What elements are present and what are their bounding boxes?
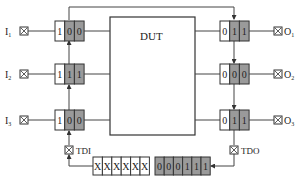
output-boundary-cell-2: 000 [220,64,249,84]
register-bit: 1 [57,26,62,37]
input-boundary-cell-1: 100 [55,21,84,41]
register-bit: 1 [185,161,190,172]
register-bit: 0 [67,26,72,37]
tdo-capture-register: 000111 [155,157,210,175]
register-bit: 0 [232,69,237,80]
register-bit: 0 [222,115,227,126]
input-pin-1 [20,27,28,35]
register-bit: 1 [242,26,247,37]
tdi-pin: TDI [65,146,91,156]
tdi-register-cells: XXXXXX [93,157,149,175]
register-bit: 0 [77,115,82,126]
register-bit: 0 [157,161,162,172]
register-bit: 1 [194,161,199,172]
register-bit: 0 [176,161,181,172]
tdo-register-wire [211,154,234,166]
output-pin-1 [274,27,282,35]
register-bit: 0 [222,69,227,80]
register-bit: 1 [242,115,247,126]
register-bit: X [122,161,130,172]
output-label-3: O3 [284,115,294,127]
tdi-shift-register: XXXXXX [93,157,149,175]
tdo-pin: TDO [230,146,260,156]
output-pin-3 [274,116,282,124]
register-bit: 0 [242,69,247,80]
output-label-2: O2 [284,69,294,81]
output-pin-2 [274,70,282,78]
output-boundary-cell-1: 011 [220,21,249,41]
register-bit: 1 [77,69,82,80]
input-boundary-cell-3: 100 [55,110,84,130]
register-bit: 0 [67,115,72,126]
register-bit: X [141,161,149,172]
register-bit: 0 [166,161,171,172]
register-bit: 1 [67,69,72,80]
input-pin-3 [20,116,28,124]
register-bit: X [113,161,121,172]
input-label-1: I1 [5,26,11,38]
input-label-2: I2 [5,69,11,81]
register-bit: X [94,161,102,172]
input-boundary-cell-2: 111 [55,64,84,84]
register-bit: 1 [203,161,208,172]
register-bit: 1 [57,69,62,80]
output-label-1: O1 [284,26,294,38]
register-bit: X [103,161,111,172]
register-bit: X [132,161,140,172]
register-bit: 1 [57,115,62,126]
tdi-label: TDI [76,146,91,156]
dut-block: DUT [110,17,195,135]
boundary-scan-diagram: DUT I1100I2111I3100 011O1000O2011O3 TDI … [0,0,300,188]
output-boundary-cell-3: 011 [220,110,249,130]
input-label-3: I3 [5,115,11,127]
register-bit: 0 [222,26,227,37]
register-bit: 0 [77,26,82,37]
register-bit: 1 [232,26,237,37]
tdo-register-cells: 000111 [155,157,210,175]
input-pin-2 [20,70,28,78]
tdi-register-wire [69,155,93,166]
register-bit: 1 [232,115,237,126]
dut-label: DUT [140,30,163,42]
tdo-label: TDO [241,146,260,156]
